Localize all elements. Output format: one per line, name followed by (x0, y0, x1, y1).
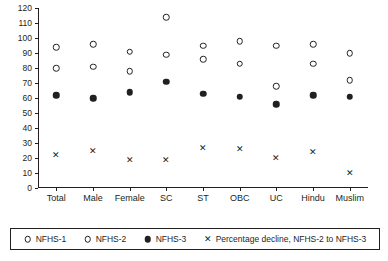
data-point-nfhs-1 (346, 50, 353, 57)
y-axis-tick-mark (35, 98, 38, 99)
data-point-nfhs-1 (310, 41, 317, 48)
legend-label: NFHS-3 (156, 235, 187, 244)
open-circle-icon (24, 235, 32, 243)
y-axis-tick-label: 60 (4, 94, 32, 103)
chart-legend: NFHS-1 NFHS-2 NFHS-3 Percentage decline,… (10, 228, 380, 250)
y-axis-tick-label: 0 (4, 184, 32, 193)
chart-container: 0102030405060708090100110120 TotalMaleFe… (0, 0, 388, 261)
data-point-nfhs-3 (163, 78, 170, 85)
x-axis-tick-mark (350, 188, 351, 191)
data-point-nfhs-3 (273, 101, 280, 108)
x-axis-tick-label: UC (270, 193, 283, 203)
data-point-percentage-decline-nfhs-2-to-nfhs-3 (89, 146, 98, 155)
data-point-percentage-decline-nfhs-2-to-nfhs-3 (272, 154, 281, 163)
legend-item-nfhs-1: NFHS-1 (24, 235, 67, 244)
y-axis-tick-mark (35, 128, 38, 129)
y-axis-tick-label: 50 (4, 109, 32, 118)
data-point-percentage-decline-nfhs-2-to-nfhs-3 (199, 143, 208, 152)
y-axis-tick-mark (35, 158, 38, 159)
x-axis-tick-mark (276, 188, 277, 191)
data-point-nfhs-1 (163, 14, 170, 21)
filled-circle-icon (144, 235, 152, 243)
data-point-nfhs-2 (236, 60, 243, 67)
cross-icon (204, 235, 212, 243)
x-axis-tick-label: Female (115, 193, 145, 203)
y-axis-tick-mark (35, 113, 38, 114)
data-point-nfhs-3 (310, 92, 317, 99)
legend-item-percentage-decline: Percentage decline, NFHS-2 to NFHS-3 (204, 235, 367, 244)
x-axis-tick-mark (56, 188, 57, 191)
y-axis-tick-mark (35, 38, 38, 39)
y-axis-tick-label: 40 (4, 124, 32, 133)
data-point-nfhs-1 (53, 44, 60, 51)
legend-label: NFHS-1 (36, 235, 67, 244)
y-axis-tick-label: 110 (4, 19, 32, 28)
y-axis-tick-label: 120 (4, 4, 32, 13)
x-axis-tick-label: Muslim (335, 193, 364, 203)
data-point-percentage-decline-nfhs-2-to-nfhs-3 (309, 148, 318, 157)
x-axis-tick-mark (313, 188, 314, 191)
data-point-nfhs-2 (346, 77, 353, 84)
y-axis-tick-mark (35, 8, 38, 9)
y-axis-tick-label: 80 (4, 64, 32, 73)
y-axis-tick-mark (35, 143, 38, 144)
data-point-percentage-decline-nfhs-2-to-nfhs-3 (235, 145, 244, 154)
legend-label: Percentage decline, NFHS-2 to NFHS-3 (216, 235, 367, 244)
x-axis-tick-label: OBC (230, 193, 250, 203)
data-point-nfhs-1 (273, 42, 280, 49)
x-axis-tick-label: Hindu (301, 193, 325, 203)
data-point-nfhs-2 (310, 60, 317, 67)
legend-item-nfhs-3: NFHS-3 (144, 235, 187, 244)
data-point-nfhs-1 (200, 42, 207, 49)
x-axis-tick-label: Total (47, 193, 66, 203)
y-axis-tick-mark (35, 53, 38, 54)
y-axis-tick-mark (35, 83, 38, 84)
legend-label: NFHS-2 (96, 235, 127, 244)
data-point-nfhs-1 (90, 41, 97, 48)
data-point-nfhs-3 (200, 90, 207, 97)
data-point-nfhs-2 (126, 68, 133, 75)
y-axis-tick-mark (35, 188, 38, 189)
data-point-nfhs-3 (346, 93, 353, 100)
data-point-percentage-decline-nfhs-2-to-nfhs-3 (345, 169, 354, 178)
y-axis-tick-label: 20 (4, 154, 32, 163)
y-axis-tick-label: 100 (4, 34, 32, 43)
data-point-percentage-decline-nfhs-2-to-nfhs-3 (162, 155, 171, 164)
data-point-nfhs-2 (273, 83, 280, 90)
data-point-percentage-decline-nfhs-2-to-nfhs-3 (52, 151, 61, 160)
legend-item-nfhs-2: NFHS-2 (84, 235, 127, 244)
data-point-nfhs-2 (53, 65, 60, 72)
y-axis-tick-label: 10 (4, 169, 32, 178)
data-point-percentage-decline-nfhs-2-to-nfhs-3 (125, 155, 134, 164)
data-point-nfhs-2 (163, 51, 170, 58)
x-axis-tick-label: ST (197, 193, 209, 203)
x-axis-tick-mark (130, 188, 131, 191)
y-axis-tick-mark (35, 173, 38, 174)
data-point-nfhs-1 (126, 48, 133, 55)
data-point-nfhs-3 (236, 93, 243, 100)
x-axis-tick-mark (203, 188, 204, 191)
plot-area (38, 8, 368, 188)
y-axis-tick-label: 70 (4, 79, 32, 88)
data-point-nfhs-3 (53, 92, 60, 99)
x-axis-tick-mark (240, 188, 241, 191)
y-axis-tick-label: 90 (4, 49, 32, 58)
y-axis-tick-label: 30 (4, 139, 32, 148)
x-axis-tick-label: SC (160, 193, 173, 203)
y-axis-tick-mark (35, 68, 38, 69)
x-axis-tick-mark (93, 188, 94, 191)
open-circle-icon (84, 235, 92, 243)
data-point-nfhs-3 (90, 95, 97, 102)
data-point-nfhs-3 (126, 89, 133, 96)
data-point-nfhs-2 (90, 63, 97, 70)
data-point-nfhs-2 (200, 56, 207, 63)
y-axis-tick-mark (35, 23, 38, 24)
x-axis-tick-label: Male (83, 193, 103, 203)
x-axis-tick-mark (166, 188, 167, 191)
data-point-nfhs-1 (236, 38, 243, 45)
